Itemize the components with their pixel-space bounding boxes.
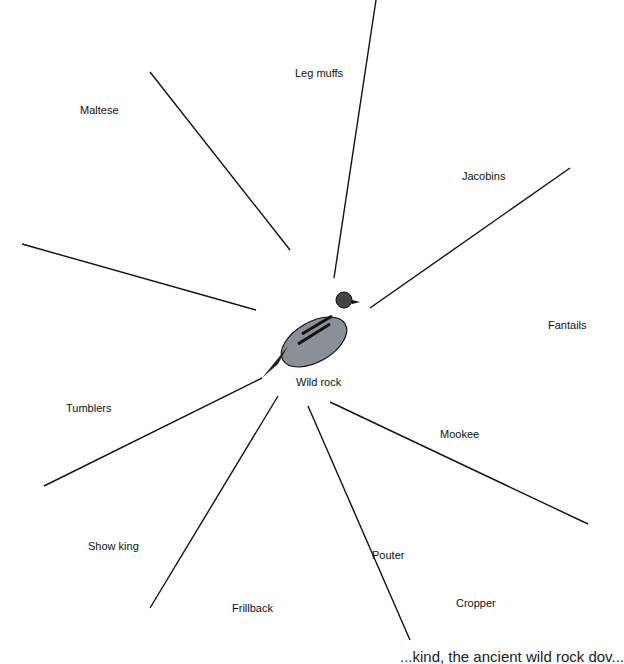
label-show-king: Show king xyxy=(88,540,139,552)
label-wild-rock: Wild rock xyxy=(296,376,341,388)
cutoff-caption: ...kind, the ancient wild rock dov... xyxy=(400,648,624,664)
label-frillback: Frillback xyxy=(232,602,273,614)
label-tumblers: Tumblers xyxy=(66,402,111,414)
label-jacobins: Jacobins xyxy=(462,170,505,182)
label-leg-muffs: Leg muffs xyxy=(295,67,343,79)
label-fantails: Fantails xyxy=(548,319,587,331)
label-maltese: Maltese xyxy=(80,104,119,116)
label-cropper: Cropper xyxy=(456,597,496,609)
label-pouter: Pouter xyxy=(372,549,404,561)
wild-rock-pigeon-illustration xyxy=(258,286,362,382)
label-mookee: Mookee xyxy=(440,428,479,440)
